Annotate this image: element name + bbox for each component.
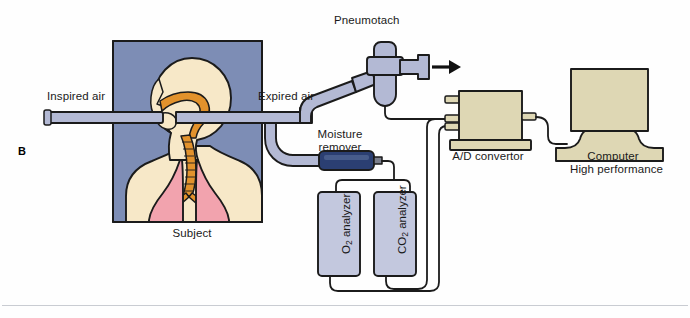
panel-letter: B	[18, 145, 26, 157]
o2-analyzer-label-sub: 2	[344, 240, 354, 245]
computer-label: Computer High performance	[570, 150, 656, 176]
computer-label-line1: Computer	[587, 150, 638, 162]
figure-canvas: .ol{stroke:#1b1b1b;stroke-width:1.9;stro…	[0, 0, 690, 318]
moisture-remover-label: Moisture remover	[307, 128, 373, 154]
moisture-remover-label-line2: remover	[319, 141, 362, 153]
ad-convertor-device	[445, 91, 567, 150]
expired-air-label: Expired air	[258, 90, 314, 103]
o2-analyzer-label: O2 analyzer	[340, 194, 354, 254]
adc-output-port	[522, 113, 536, 120]
adc-to-computer-wire	[536, 117, 567, 144]
co2-analyzer-label: CO2 analyzer	[396, 185, 410, 254]
co2-analyzer-label-text: CO	[396, 237, 408, 254]
ad-convertor-label: A/D convertor	[443, 150, 533, 163]
co2-analyzer-label-sub: 2	[400, 232, 410, 237]
vent-arrow	[432, 60, 461, 74]
computer-label-line2: High performance	[570, 163, 663, 175]
pneumotach-signal-wire	[385, 106, 447, 119]
subject-label: Subject	[152, 227, 232, 240]
o2-analyzer-label-suffix: analyzer	[340, 194, 352, 241]
computer-device	[556, 69, 663, 161]
moisture-remover-label-line1: Moisture	[318, 128, 363, 140]
inspired-air-tube	[44, 110, 163, 125]
pneumotach-device	[367, 42, 461, 119]
bottom-divider	[2, 305, 688, 306]
subject-panel	[113, 41, 262, 222]
pneumotach-label: Pneumotach	[334, 14, 400, 27]
inspired-air-label: Inspired air	[47, 90, 105, 103]
co2-analyzer-label-suffix: analyzer	[396, 185, 408, 232]
o2-analyzer-label-text: O	[340, 245, 352, 254]
